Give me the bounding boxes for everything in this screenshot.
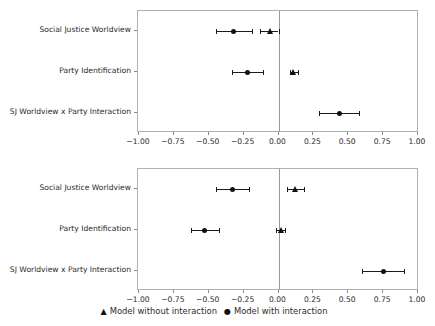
y-axis-tick bbox=[134, 71, 137, 72]
data-point-circle-marker bbox=[231, 29, 236, 34]
x-axis-tick-label: 1.00 bbox=[409, 295, 426, 304]
data-point-circle-marker bbox=[245, 70, 250, 75]
legend-item-label: Model without interaction bbox=[110, 306, 217, 316]
data-point-circle-marker bbox=[202, 228, 207, 233]
y-axis-tick-label: Social Justice Worldview bbox=[0, 25, 131, 34]
x-axis-tick bbox=[417, 290, 418, 293]
x-axis-tick bbox=[312, 132, 313, 135]
x-axis-tick bbox=[382, 132, 383, 135]
x-axis-tick-label: −1.00 bbox=[126, 295, 149, 304]
confidence-interval-cap bbox=[304, 187, 305, 192]
x-axis-tick bbox=[382, 290, 383, 293]
x-axis-tick bbox=[312, 290, 313, 293]
y-axis-tick-label: SJ Worldview x Party Interaction bbox=[0, 265, 131, 274]
y-axis-tick-label: Party Identification bbox=[0, 224, 131, 233]
x-axis-tick-label: −0.25 bbox=[231, 295, 254, 304]
x-axis-tick bbox=[278, 290, 279, 293]
confidence-interval-cap bbox=[276, 228, 277, 233]
x-axis-tick-label: 0.75 bbox=[374, 295, 391, 304]
x-axis-tick-label: 1.00 bbox=[409, 137, 426, 146]
confidence-interval-cap bbox=[216, 187, 217, 192]
x-axis-tick bbox=[208, 132, 209, 135]
confidence-interval-cap bbox=[298, 70, 299, 75]
x-axis-tick bbox=[243, 132, 244, 135]
x-axis-tick-label: −0.50 bbox=[196, 295, 219, 304]
plot-area-bottom bbox=[138, 169, 417, 289]
y-axis-tick bbox=[134, 229, 137, 230]
x-axis-tick-label: 0.50 bbox=[339, 295, 356, 304]
confidence-interval-cap bbox=[219, 228, 220, 233]
confidence-interval-cap bbox=[404, 269, 405, 274]
confidence-interval-cap bbox=[260, 29, 261, 34]
x-axis-tick bbox=[138, 290, 139, 293]
confidence-interval-cap bbox=[249, 187, 250, 192]
legend-circle-icon: ● bbox=[224, 307, 231, 316]
x-axis-tick bbox=[347, 132, 348, 135]
confidence-interval-cap bbox=[359, 111, 360, 116]
chart-panel-bottom bbox=[137, 168, 418, 290]
chart-panel-top bbox=[137, 10, 418, 132]
x-axis-tick-label: −0.75 bbox=[161, 295, 184, 304]
x-axis-tick-label: −0.50 bbox=[196, 137, 219, 146]
data-point-triangle-marker bbox=[290, 69, 296, 75]
data-point-triangle-marker bbox=[267, 28, 273, 34]
y-axis-tick-label: SJ Worldview x Party Interaction bbox=[0, 107, 131, 116]
data-point-circle-marker bbox=[230, 187, 235, 192]
confidence-interval-cap bbox=[191, 228, 192, 233]
data-point-triangle-marker bbox=[278, 227, 284, 233]
y-axis-tick bbox=[134, 112, 137, 113]
y-axis-tick-label: Social Justice Worldview bbox=[0, 183, 131, 192]
x-axis-tick bbox=[138, 132, 139, 135]
x-axis-tick-label: 0.00 bbox=[269, 137, 286, 146]
x-axis-tick bbox=[173, 132, 174, 135]
x-axis-tick-label: 0.00 bbox=[269, 295, 286, 304]
legend-item: ▲Model without interaction bbox=[101, 306, 224, 316]
x-axis-tick-label: −0.25 bbox=[231, 137, 254, 146]
confidence-interval-cap bbox=[279, 29, 280, 34]
y-axis-tick bbox=[134, 270, 137, 271]
x-axis-tick bbox=[243, 290, 244, 293]
data-point-circle-marker bbox=[337, 111, 342, 116]
x-axis-tick bbox=[417, 132, 418, 135]
plot-area-top bbox=[138, 11, 417, 131]
x-axis-tick-label: 0.75 bbox=[374, 137, 391, 146]
x-axis-tick-label: −0.75 bbox=[161, 137, 184, 146]
x-axis-tick bbox=[347, 290, 348, 293]
x-axis-tick bbox=[173, 290, 174, 293]
confidence-interval-cap bbox=[216, 29, 217, 34]
confidence-interval-cap bbox=[252, 29, 253, 34]
x-axis-tick-label: −1.00 bbox=[126, 137, 149, 146]
confidence-interval-cap bbox=[263, 70, 264, 75]
x-axis-tick bbox=[278, 132, 279, 135]
data-point-circle-marker bbox=[381, 269, 386, 274]
confidence-interval-cap bbox=[287, 187, 288, 192]
confidence-interval-cap bbox=[232, 70, 233, 75]
confidence-interval-cap bbox=[285, 228, 286, 233]
legend-item-label: Model with interaction bbox=[234, 306, 328, 316]
x-axis-tick bbox=[208, 290, 209, 293]
confidence-interval-cap bbox=[362, 269, 363, 274]
confidence-interval-cap bbox=[319, 111, 320, 116]
y-axis-tick bbox=[134, 30, 137, 31]
y-axis-tick bbox=[134, 188, 137, 189]
legend-item: ●Model with interaction bbox=[224, 306, 335, 316]
x-axis-tick-label: 0.50 bbox=[339, 137, 356, 146]
chart-legend: ▲Model without interaction●Model with in… bbox=[0, 306, 435, 316]
y-axis-tick-label: Party Identification bbox=[0, 66, 131, 75]
data-point-triangle-marker bbox=[292, 186, 298, 192]
x-axis-tick-label: 0.25 bbox=[304, 295, 321, 304]
legend-triangle-icon: ▲ bbox=[101, 307, 107, 316]
x-axis-tick-label: 0.25 bbox=[304, 137, 321, 146]
forest-plot-figure: Social Justice WorldviewParty Identifica… bbox=[0, 0, 435, 326]
